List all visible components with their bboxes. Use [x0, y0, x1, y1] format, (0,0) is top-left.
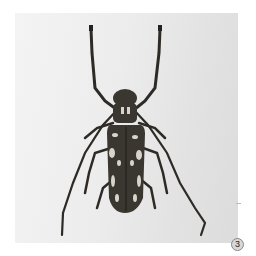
margin-mark	[236, 203, 241, 204]
figure-number-badge: 3	[231, 238, 244, 251]
specimen-photo: 3	[15, 13, 238, 243]
beetle-illustration	[15, 13, 238, 243]
